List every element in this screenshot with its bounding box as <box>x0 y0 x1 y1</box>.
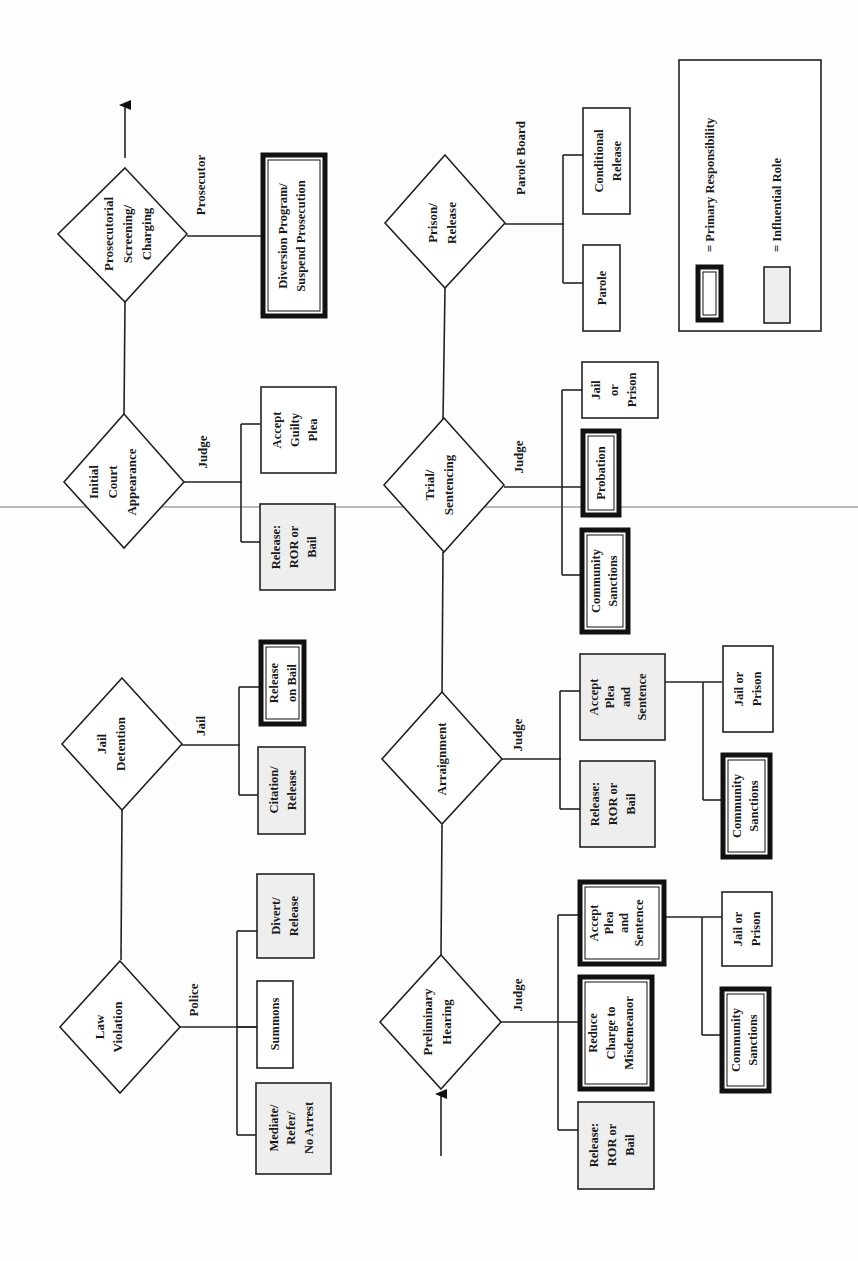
svg-text:Prison: Prison <box>749 912 763 947</box>
svg-text:and: and <box>617 913 631 933</box>
svg-text:Community: Community <box>729 1007 743 1072</box>
svg-text:Diversion Program/: Diversion Program/ <box>276 183 290 289</box>
stage-law-violation[interactable]: Law Violation Police <box>60 931 257 1135</box>
svg-text:Arraignment: Arraignment <box>434 722 449 796</box>
svg-text:ROR or: ROR or <box>287 525 301 568</box>
svg-text:Reduce: Reduce <box>586 1013 600 1053</box>
svg-text:Prison: Prison <box>625 373 639 408</box>
svg-text:Release:: Release: <box>588 782 602 826</box>
actor-label-jail: Jail <box>193 716 208 737</box>
svg-text:Jail: Jail <box>94 734 109 755</box>
sub-option-community-sanctions[interactable]: Community Sanctions <box>723 755 770 857</box>
svg-text:Divert/: Divert/ <box>269 897 283 935</box>
option-summons[interactable]: Summons <box>257 981 293 1068</box>
legend-primary-label: = Primary Responsibility <box>703 117 717 252</box>
option-accept-plea-and-sentence[interactable]: Accept Plea and Sentence <box>580 654 665 740</box>
svg-text:Release: Release <box>285 769 299 810</box>
stage-initial-court-appearance[interactable]: Initial Court Appearance Judge <box>64 414 260 548</box>
sub-option-jail-or-prison[interactable]: Jail or Prison <box>722 892 772 966</box>
svg-text:Prison: Prison <box>750 672 764 707</box>
option-jail-or-prison[interactable]: Jail or Prison <box>582 362 658 418</box>
option-mediate-refer-no-arrest[interactable]: Mediate/ Refer/ No Arrest <box>256 1083 331 1174</box>
svg-text:Mediate/: Mediate/ <box>267 1104 281 1152</box>
legend: = Primary Responsibility = Influential R… <box>679 60 821 331</box>
svg-text:Hearing: Hearing <box>439 999 454 1045</box>
sub-option-jail-or-prison[interactable]: Jail or Prison <box>723 646 773 732</box>
svg-text:Bail: Bail <box>305 536 319 558</box>
option-probation[interactable]: Probation <box>583 431 619 515</box>
svg-text:Probation: Probation <box>594 446 608 499</box>
svg-text:Release: Release <box>267 662 281 703</box>
svg-text:Release:: Release: <box>269 525 283 569</box>
stage-preliminary-hearing[interactable]: Preliminary Hearing Judge <box>380 915 723 1130</box>
svg-text:Plea: Plea <box>602 911 616 935</box>
sub-option-community-sanctions[interactable]: Community Sanctions <box>722 989 769 1091</box>
stage-jail-detention[interactable]: Jail Detention Jail <box>62 678 260 810</box>
option-accept-guilty-plea[interactable]: Accept Guilty Plea <box>261 387 336 473</box>
option-divert-release[interactable]: Divert/ Release <box>257 874 314 958</box>
svg-text:ROR or: ROR or <box>605 1123 619 1166</box>
actor-label-judge: Judge <box>510 978 525 1011</box>
svg-text:Suspend Prosecution: Suspend Prosecution <box>294 180 308 291</box>
svg-text:and: and <box>619 687 633 707</box>
svg-text:Plea: Plea <box>306 418 320 442</box>
flowchart-canvas: Law Violation Police Mediate/ Refer/ No … <box>0 0 858 1261</box>
actor-label-parole-board: Parole Board <box>513 120 528 195</box>
svg-text:Release: Release <box>444 202 459 244</box>
svg-text:Jail: Jail <box>589 380 603 400</box>
svg-text:Accept: Accept <box>587 904 601 942</box>
svg-text:Sentence: Sentence <box>635 673 649 721</box>
svg-text:Appearance: Appearance <box>124 448 139 515</box>
stage-label: Law <box>92 1014 107 1039</box>
svg-text:Misdemeanor: Misdemeanor <box>622 996 636 1070</box>
svg-text:Sentencing: Sentencing <box>441 454 456 515</box>
option-release-ror-or-bail[interactable]: Release: ROR or Bail <box>580 761 655 847</box>
actor-label-judge: Judge <box>511 440 526 473</box>
svg-text:on Bail: on Bail <box>285 664 299 702</box>
stage-arraignment[interactable]: Arraignment Judge <box>382 682 722 824</box>
legend-primary-swatch <box>698 267 721 320</box>
svg-text:Preliminary: Preliminary <box>420 988 435 1055</box>
option-release-ror-or-bail[interactable]: Release: ROR or Bail <box>578 1102 654 1189</box>
svg-text:Community: Community <box>730 773 744 838</box>
actor-label-judge: Judge <box>510 718 525 751</box>
legend-influential-swatch <box>764 267 790 323</box>
svg-text:Refer/: Refer/ <box>284 1111 298 1145</box>
svg-text:Prosecutorial: Prosecutorial <box>101 197 116 272</box>
stage-trial-sentencing[interactable]: Trial/ Sentencing Judge <box>384 390 582 575</box>
svg-text:Jail or: Jail or <box>732 671 746 706</box>
svg-text:Initial: Initial <box>86 465 101 499</box>
svg-text:No Arrest: No Arrest <box>302 1101 316 1154</box>
svg-text:Detention: Detention <box>113 716 128 771</box>
option-accept-plea-and-sentence[interactable]: Accept Plea and Sentence <box>580 882 664 964</box>
option-release-ror-or-bail[interactable]: Release: ROR or Bail <box>260 504 335 590</box>
svg-text:Screening/: Screening/ <box>120 204 135 263</box>
option-community-sanctions[interactable]: Community Sanctions <box>582 530 628 632</box>
svg-text:Conditional: Conditional <box>592 129 606 193</box>
svg-text:Prison/: Prison/ <box>425 203 440 243</box>
svg-text:Bail: Bail <box>624 793 638 815</box>
actor-label-police: Police <box>186 983 201 1016</box>
option-citation-release[interactable]: Citation/ Release <box>258 747 305 834</box>
option-parole[interactable]: Parole <box>583 245 620 331</box>
svg-text:Sentence: Sentence <box>632 899 646 947</box>
option-release-on-bail[interactable]: Release on Bail <box>261 642 304 724</box>
legend-influential-label: = Influential Role <box>770 158 784 252</box>
svg-text:Jail or: Jail or <box>731 911 745 946</box>
svg-text:Summons: Summons <box>268 997 282 1050</box>
svg-text:Release:: Release: <box>587 1123 601 1167</box>
svg-text:Sanctions: Sanctions <box>747 780 761 832</box>
svg-text:or: or <box>607 384 621 396</box>
option-reduce-charge[interactable]: Reduce Charge to Misdemeanor <box>580 977 652 1089</box>
stage-prison-release[interactable]: Prison/ Release Parole Board <box>385 120 583 288</box>
actor-label-judge: Judge <box>195 435 210 468</box>
svg-text:ROR or: ROR or <box>606 782 620 825</box>
option-conditional-release[interactable]: Conditional Release <box>583 108 630 214</box>
svg-text:Parole: Parole <box>595 270 609 305</box>
stage-prosecutorial-screening[interactable]: Prosecutorial Screening/ Charging Prosec… <box>58 155 262 302</box>
svg-text:Release: Release <box>610 140 624 181</box>
svg-text:Community: Community <box>589 548 603 613</box>
option-diversion-program[interactable]: Diversion Program/ Suspend Prosecution <box>263 155 325 316</box>
svg-text:Trial/: Trial/ <box>422 469 437 500</box>
svg-text:Sanctions: Sanctions <box>606 555 620 607</box>
